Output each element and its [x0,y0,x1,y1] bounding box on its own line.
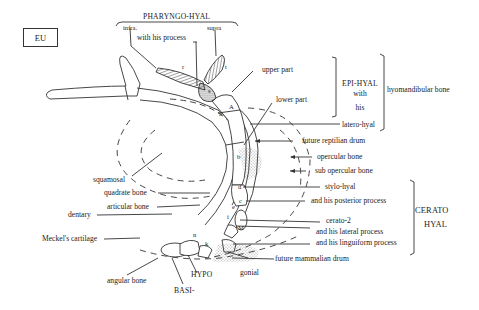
hyomandibular-bracket [380,54,384,131]
letter-r: r [182,64,184,71]
letter-n: n [193,232,196,239]
linguiform-process-label: and his linguiform process [316,239,397,247]
latero-hyal-label: latero-hyal [342,121,375,129]
infra-label: infra. [123,25,137,32]
with-his-process-label: with his process [137,34,186,42]
dentary-label: dentary [68,211,91,219]
letter-i: i [227,214,229,221]
gonial-label: gonial [240,269,259,277]
cerato-hyal-bracket [410,180,414,255]
letter-A: A [229,104,234,111]
hyal-label: HYAL [424,221,447,229]
cerato-label: CERATO [415,207,449,215]
epi-hyal-with-label: with [340,90,380,98]
articular-bone-label: articular bone [107,203,149,211]
stylo-hyal-label: stylo-hyal [325,183,355,191]
letter-a: a [219,111,222,118]
hypo-label: HYPO [191,271,212,279]
letter-e: e [232,204,235,211]
letter-s: s [208,88,211,95]
angular-bone-label: angular bone [107,277,146,285]
supra-label: supra [207,25,221,32]
letter-t: t [225,64,227,71]
quadrate-bone-label: quadrate bone [104,189,147,197]
future-mammalian-drum-label: future mammalian drum [275,255,349,263]
epi-hyal-label: EPI-HYAL [340,80,380,88]
letter-M: M [238,225,244,232]
letter-c: c [239,198,242,205]
opercular-bone-label: opercular bone [317,153,362,161]
meckels-cartilage-label: Meckel's cartilage [42,235,97,243]
letter-d: d [238,184,241,191]
basi-label: BASI- [174,287,195,295]
letter-k: k [205,241,208,248]
lower-part-label: lower part [276,96,307,104]
cerato-2-label: cerato-2 [326,217,351,225]
upper-part-label: upper part [262,66,293,74]
squamosal-label: squamosal [93,176,125,184]
sub-opercular-bone-label: sub opercular bone [315,167,373,175]
epi-hyal-his-label: his [340,104,380,112]
future-reptilian-drum-label: future reptilian drum [302,137,365,145]
posterior-process-label: and his posterior process [311,197,386,205]
epi-hyal-bracket [332,57,336,117]
pharyngo-hyal-label: PHARYNGO-HYAL [143,13,210,21]
lateral-process-label: and his lateral process [316,228,383,236]
letter-b: b [237,154,240,161]
figure-badge: EU [23,28,58,47]
hyomandibular-bone-label: hyomandibular bone [387,86,450,94]
